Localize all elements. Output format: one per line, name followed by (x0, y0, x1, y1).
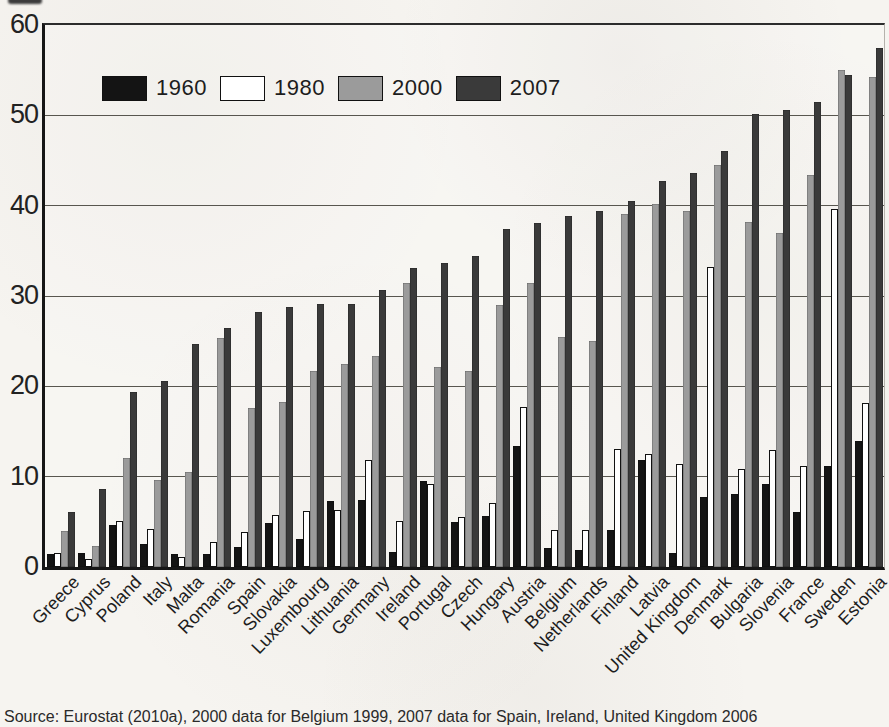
legend-label: 1980 (274, 75, 325, 101)
bar-bulgaria-1980 (738, 469, 745, 567)
bar-austria-2000 (527, 283, 534, 567)
bar-belgium-2007 (565, 216, 572, 567)
bar-slovakia-2007 (286, 307, 293, 567)
bar-estonia-2000 (869, 77, 876, 568)
bar-greece-1960 (47, 554, 54, 567)
bar-sweden-2007 (845, 75, 852, 567)
bar-latvia-2000 (652, 204, 659, 567)
y-tick-label-60: 60 (0, 11, 38, 38)
source-caption: Source: Eurostat (2010a), 2000 data for … (4, 708, 889, 726)
bar-czech-2000 (465, 371, 472, 567)
bar-hungary-1960 (482, 516, 489, 567)
bar-cyprus-2000 (92, 546, 99, 567)
legend-item-2000: 2000 (338, 75, 443, 101)
bar-austria-1960 (513, 446, 520, 567)
bar-luxembourg-1980 (303, 511, 310, 567)
bar-denmark-2007 (721, 151, 728, 567)
legend-swatch-1980 (220, 76, 265, 101)
bar-poland-2007 (130, 392, 137, 567)
bar-spain-1960 (234, 547, 241, 567)
bar-france-1960 (793, 512, 800, 567)
legend-label: 2007 (510, 75, 561, 101)
bar-estonia-1960 (855, 441, 862, 567)
bar-netherlands-2000 (589, 341, 596, 567)
bar-france-2000 (807, 175, 814, 567)
bar-france-1980 (800, 466, 807, 567)
bar-sweden-2000 (838, 70, 845, 567)
bar-malta-1960 (171, 554, 178, 567)
bar-ireland-2007 (410, 268, 417, 567)
bar-poland-1960 (109, 525, 116, 567)
bar-belgium-1960 (544, 548, 551, 567)
bar-lithuania-2000 (341, 364, 348, 567)
plot-area: 1960198020002007 (42, 23, 885, 570)
bar-luxembourg-2000 (310, 371, 317, 567)
bar-netherlands-2007 (596, 211, 603, 567)
bar-austria-1980 (520, 407, 527, 567)
bar-bulgaria-2000 (745, 222, 752, 567)
bar-netherlands-1980 (582, 530, 589, 567)
bar-finland-1960 (607, 530, 614, 567)
bar-latvia-1960 (638, 460, 645, 567)
bar-united-kingdom-2007 (690, 173, 697, 567)
bar-finland-1980 (614, 449, 621, 567)
bar-cyprus-1980 (85, 559, 92, 567)
legend-item-2007: 2007 (456, 75, 561, 101)
legend-label: 1960 (156, 75, 207, 101)
bar-poland-1980 (116, 521, 123, 567)
bar-greece-2000 (61, 531, 68, 567)
bar-cyprus-1960 (78, 553, 85, 567)
y-tick-label-0: 0 (0, 553, 38, 580)
bar-austria-2007 (534, 223, 541, 567)
bar-spain-1980 (241, 532, 248, 567)
bar-romania-2000 (217, 338, 224, 567)
legend-swatch-2007 (456, 76, 501, 101)
bar-germany-2000 (372, 356, 379, 567)
bar-united-kingdom-1960 (669, 553, 676, 567)
bar-slovenia-2000 (776, 233, 783, 567)
bar-poland-2000 (123, 458, 130, 567)
bar-germany-1980 (365, 460, 372, 567)
bar-cyprus-2007 (99, 489, 106, 567)
bar-latvia-2007 (659, 181, 666, 567)
bar-bulgaria-2007 (752, 114, 759, 567)
bar-portugal-2000 (434, 367, 441, 567)
bar-sweden-1980 (831, 209, 838, 567)
bar-portugal-1960 (420, 481, 427, 567)
bar-sweden-1960 (824, 466, 831, 567)
bar-slovakia-2000 (279, 402, 286, 567)
bar-france-2007 (814, 102, 821, 567)
y-tick-label-40: 40 (0, 192, 38, 219)
bar-spain-2007 (255, 312, 262, 567)
bar-slovenia-1960 (762, 484, 769, 567)
legend-swatch-2000 (338, 76, 383, 101)
legend-item-1980: 1980 (220, 75, 325, 101)
bar-malta-1980 (178, 557, 185, 567)
bar-romania-1960 (203, 554, 210, 567)
y-tick-label-20: 20 (0, 372, 38, 399)
bar-portugal-1980 (427, 484, 434, 567)
bar-greece-2007 (68, 512, 75, 567)
legend-swatch-1960 (102, 76, 147, 101)
bar-united-kingdom-1980 (676, 464, 683, 567)
bar-estonia-2007 (876, 48, 883, 567)
bar-germany-1960 (358, 500, 365, 567)
bar-italy-2000 (154, 480, 161, 567)
y-tick-label-30: 30 (0, 282, 38, 309)
bar-estonia-1980 (862, 403, 869, 567)
bar-netherlands-1960 (575, 550, 582, 567)
y-tick-label-10: 10 (0, 463, 38, 490)
bar-hungary-1980 (489, 503, 496, 567)
bar-finland-2007 (628, 201, 635, 567)
scanned-bar-chart-page: { "page": { "caption": "Source: Eurostat… (0, 0, 889, 727)
bar-slovenia-1980 (769, 450, 776, 567)
bar-denmark-1980 (707, 267, 714, 567)
bar-portugal-2007 (441, 263, 448, 567)
bar-belgium-1980 (551, 530, 558, 567)
bar-hungary-2000 (496, 305, 503, 567)
bar-czech-1980 (458, 517, 465, 567)
bar-germany-2007 (379, 290, 386, 567)
bar-romania-2007 (224, 328, 231, 567)
legend-label: 2000 (392, 75, 443, 101)
bar-luxembourg-2007 (317, 304, 324, 567)
